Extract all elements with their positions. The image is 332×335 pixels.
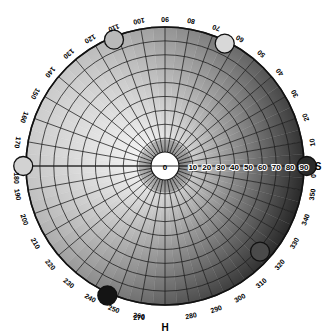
radial-tick-label: 20	[202, 163, 211, 172]
angular-tick-label: 330	[289, 236, 301, 250]
hsv-polar-chart: 0101020203030404050506060707080809090 10…	[0, 0, 332, 335]
angular-tick-label: 60	[235, 34, 245, 44]
angular-tick-label: 200	[19, 213, 30, 226]
angular-tick-label: 20	[301, 112, 310, 122]
angular-tick-label: 190	[13, 188, 22, 201]
radial-tick-label: 80	[286, 163, 295, 172]
radial-tick-label: 60	[258, 163, 267, 172]
angular-tick-label: 130	[62, 48, 76, 61]
angular-tick-label: 230	[62, 277, 76, 290]
angular-tick-label: 220	[44, 258, 57, 272]
radial-tick-label: 30	[216, 163, 225, 172]
angular-tick-label: 240	[83, 292, 97, 304]
angular-tick-label: 10	[308, 138, 316, 147]
marker-5[interactable]	[251, 242, 270, 261]
angular-tick-label: 80	[186, 17, 195, 25]
angular-tick-label: 340	[300, 213, 311, 226]
radial-tick-label: 40	[230, 163, 239, 172]
angular-tick-label: 90	[161, 16, 169, 23]
angular-tick-label: 50	[256, 49, 267, 59]
marker-1[interactable]	[104, 30, 123, 49]
angular-tick-label: 0	[310, 174, 317, 178]
radial-tick-label: 50	[244, 163, 253, 172]
angular-tick-label: 290	[209, 304, 222, 315]
angular-tick-label: 210	[30, 236, 42, 250]
angular-tick-label: 270	[133, 314, 145, 321]
marker-6[interactable]	[98, 286, 117, 305]
angular-tick-label: 320	[273, 258, 286, 272]
saturation-axis-label: S	[315, 161, 322, 172]
hue-axis-label: H	[161, 322, 168, 333]
angular-tick-label: 170	[13, 136, 22, 149]
angular-tick-label: 250	[107, 304, 120, 315]
angular-tick-label: 160	[19, 111, 30, 124]
angular-tick-label: 150	[30, 87, 42, 101]
angular-tick-label: 310	[254, 277, 268, 290]
angular-tick-label: 120	[83, 33, 97, 45]
angular-tick-label: 350	[308, 188, 317, 201]
radial-tick-label: 0	[163, 163, 168, 172]
angular-tick-label: 140	[44, 66, 57, 80]
angular-tick-label: 100	[133, 17, 146, 26]
marker-2[interactable]	[215, 34, 234, 53]
angular-tick-label: 300	[233, 292, 247, 304]
chart-canvas: 0101020203030404050506060707080809090 10…	[13, 16, 322, 334]
radial-tick-label: 10	[188, 163, 197, 172]
radial-tick-label: 90	[300, 163, 309, 172]
angular-tick-label: 280	[185, 311, 198, 320]
angular-tick-label: 70	[211, 23, 221, 32]
angular-tick-label: 180	[13, 172, 20, 184]
radial-tick-label: 70	[272, 163, 281, 172]
angular-tick-label: 40	[274, 67, 284, 78]
angular-tick-label: 30	[289, 89, 299, 99]
